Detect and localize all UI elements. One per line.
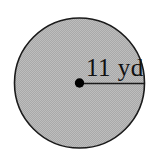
circle-diagram-svg (0, 0, 165, 166)
radius-measurement-label: 11 yd (86, 55, 144, 80)
center-point-dot (75, 78, 84, 87)
geometry-figure: 11 yd (0, 0, 165, 166)
